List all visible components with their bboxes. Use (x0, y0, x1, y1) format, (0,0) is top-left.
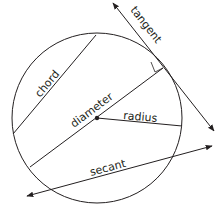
chord-label: chord (32, 68, 62, 100)
diameter-label: diameter (68, 90, 116, 131)
center-point (95, 116, 99, 120)
secant-label: secant (88, 157, 127, 179)
tangent-label: tangent (128, 4, 165, 46)
diagram-svg: tangent chord diameter radius secant (0, 0, 223, 212)
radius-label: radius (123, 109, 158, 125)
circle-diagram: tangent chord diameter radius secant (0, 0, 223, 212)
